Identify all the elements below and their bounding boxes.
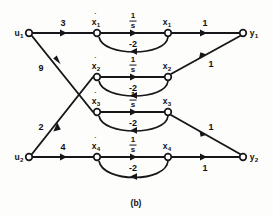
arrowhead-x4-xd4 <box>130 173 137 180</box>
arrowhead-x1-y1 <box>200 30 207 37</box>
node-label-xdot1: ˙x1 <box>92 18 100 27</box>
gain-label-u1-xd1: 3 <box>60 19 65 28</box>
node-xdot3 <box>94 109 101 116</box>
node-label-y1: y1 <box>250 29 258 38</box>
node-xdot4 <box>94 154 101 161</box>
node-label-u2: u2 <box>15 153 24 162</box>
arrowhead-u2-xd4 <box>60 154 67 161</box>
node-label-y2: y2 <box>250 153 258 162</box>
node-label-x4: x4 <box>163 142 171 151</box>
gain-label-xd1-x1: 1 s <box>130 12 137 31</box>
gain-label-u2-xd2: 2 <box>38 123 43 132</box>
node-label-u1: u1 <box>15 29 24 38</box>
arrowhead-xd2-x2 <box>130 74 137 81</box>
node-label-xdot3: ˙x3 <box>92 97 100 106</box>
graph-canvas <box>0 0 273 216</box>
node-y1 <box>240 30 247 37</box>
gain-label-x3-xd3: -2 <box>129 119 137 128</box>
gain-label-x4-xd4: -2 <box>129 164 137 173</box>
gain-label-x2-y1: 1 <box>208 60 213 69</box>
node-x4 <box>165 154 172 161</box>
edge-u1-xd3 <box>32 36 93 112</box>
gain-label-xd3-x3: 1 s <box>130 91 137 110</box>
node-label-xdot2: ˙x2 <box>92 62 100 71</box>
figure-caption: (b) <box>131 198 142 208</box>
node-label-x3: x3 <box>163 97 171 106</box>
gain-label-u2-xd4: 4 <box>60 143 65 152</box>
gain-label-xd4-x4: 1 s <box>130 136 137 155</box>
node-label-x1: x1 <box>163 18 171 27</box>
node-u1 <box>26 30 33 37</box>
node-xdot1 <box>94 30 101 37</box>
gain-label-x1-xd1: -2 <box>129 40 137 49</box>
node-y2 <box>240 154 247 161</box>
arrowhead-xd1-x1 <box>130 30 137 37</box>
gain-label-x3-y2: 1 <box>208 123 213 132</box>
arrowhead-x3-xd3 <box>130 127 137 134</box>
node-x3 <box>165 109 172 116</box>
node-xdot2 <box>94 74 101 81</box>
arrowhead-xd3-x3 <box>130 109 137 116</box>
gain-label-u1-xd3: 9 <box>38 64 43 73</box>
gain-label-x4-y2: 1 <box>202 164 207 173</box>
gain-label-x1-y1: 1 <box>202 19 207 28</box>
node-x1 <box>165 30 172 37</box>
node-x2 <box>165 74 172 81</box>
node-label-x2: x2 <box>163 62 171 71</box>
signal-flow-graph-figure: u1 u2 ˙x1 ˙x2 ˙x3 ˙x4 x1 x2 x3 x4 y1 y2 … <box>0 0 273 216</box>
arrowhead-xd4-x4 <box>130 154 137 161</box>
node-label-xdot4: ˙x4 <box>92 142 100 151</box>
arrowhead-u1-xd1 <box>60 30 67 37</box>
gain-label-xd2-x2: 1 s <box>130 56 137 75</box>
arrowhead-x4-y2 <box>200 154 207 161</box>
node-u2 <box>26 154 33 161</box>
